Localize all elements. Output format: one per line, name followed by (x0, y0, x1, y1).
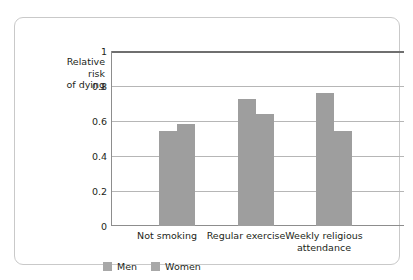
figure-frame: Relative risk of dying 1 0.8 0.6 0.4 0.2… (14, 17, 400, 265)
y-tick-label: 1 (81, 46, 107, 57)
x-axis-category-labels: Not smoking Regular exercise Weekly reli… (111, 230, 403, 260)
legend-label-men: Men (117, 261, 137, 272)
legend-item-women: Women (151, 261, 201, 272)
category-label-line: Weekly religious (272, 230, 376, 242)
legend-label-women: Women (165, 261, 201, 272)
y-tick-label: 0 (81, 221, 107, 232)
legend-swatch-icon (103, 262, 112, 271)
legend-swatch-icon (151, 262, 160, 271)
category-label-line: attendance (272, 242, 376, 254)
bar-women-not-smoking (177, 124, 195, 226)
bar-men-not-smoking (159, 131, 177, 226)
plot-area (111, 51, 403, 226)
y-tick-label: 0.4 (81, 151, 107, 162)
bar-group-regular-exercise (238, 51, 274, 226)
category-label-weekly-religious-attendance: Weekly religious attendance (272, 230, 376, 253)
chart-legend: Men Women (103, 261, 201, 272)
y-axis-tick-labels: 1 0.8 0.6 0.4 0.2 0 (81, 51, 107, 226)
bar-women-weekly-religious-attendance (334, 131, 352, 226)
y-tick-label: 0.8 (81, 81, 107, 92)
bar-women-regular-exercise (256, 114, 274, 226)
y-tick-label: 0.6 (81, 116, 107, 127)
legend-item-men: Men (103, 261, 137, 272)
bar-men-regular-exercise (238, 99, 256, 226)
bar-men-weekly-religious-attendance (316, 93, 334, 226)
bar-group-weekly-religious-attendance (316, 51, 352, 226)
bar-group-not-smoking (159, 51, 195, 226)
y-tick-label: 0.2 (81, 186, 107, 197)
